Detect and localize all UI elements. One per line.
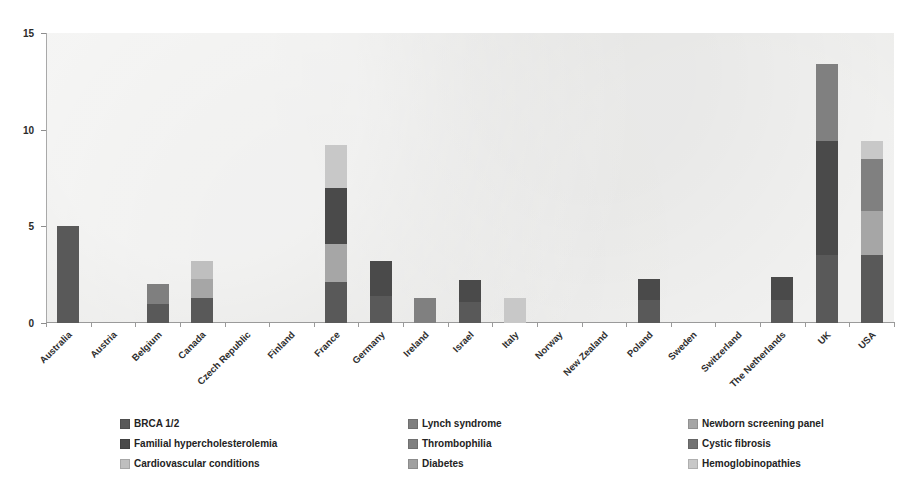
x-label-uk: UK bbox=[815, 329, 832, 346]
legend-item[interactable]: Cystic fibrosis bbox=[688, 438, 771, 449]
bar-segment[interactable] bbox=[771, 300, 793, 323]
legend-label: Familial hypercholesterolemia bbox=[134, 438, 277, 449]
x-label-ireland: Ireland bbox=[401, 329, 431, 359]
legend-swatch-icon bbox=[120, 439, 130, 449]
x-label-switzerland: Switzerland bbox=[698, 329, 743, 374]
bar-segment[interactable] bbox=[191, 261, 213, 278]
legend-item[interactable]: Diabetes bbox=[408, 458, 464, 469]
legend-label: Hemoglobinopathies bbox=[702, 458, 801, 469]
x-label-norway: Norway bbox=[533, 329, 565, 361]
x-label-israel: Israel bbox=[450, 329, 475, 354]
y-tick-label: 5 bbox=[0, 221, 34, 232]
bar-segment[interactable] bbox=[191, 279, 213, 298]
x-label-sweden: Sweden bbox=[666, 329, 699, 362]
y-tick-label: 10 bbox=[0, 124, 34, 135]
legend-item[interactable]: Thrombophilia bbox=[408, 438, 491, 449]
bar-segment[interactable] bbox=[638, 300, 660, 323]
bar-segment[interactable] bbox=[861, 159, 883, 211]
legend-label: BRCA 1/2 bbox=[134, 418, 179, 429]
x-label-canada: Canada bbox=[176, 329, 208, 361]
bar-segment[interactable] bbox=[816, 255, 838, 323]
bar-segment[interactable] bbox=[370, 261, 392, 296]
bar-france[interactable] bbox=[325, 145, 347, 323]
bar-segment[interactable] bbox=[861, 255, 883, 323]
bar-segment[interactable] bbox=[504, 298, 526, 323]
legend-label: Lynch syndrome bbox=[422, 418, 502, 429]
bar-segment[interactable] bbox=[191, 298, 213, 323]
bar-germany[interactable] bbox=[370, 261, 392, 323]
legend-label: Thrombophilia bbox=[422, 438, 491, 449]
x-label-new-zealand: New Zealand bbox=[561, 329, 610, 378]
bar-segment[interactable] bbox=[370, 296, 392, 323]
bar-segment[interactable] bbox=[816, 141, 838, 255]
legend-swatch-icon bbox=[408, 419, 418, 429]
bar-segment[interactable] bbox=[459, 280, 481, 301]
legend-swatch-icon bbox=[688, 459, 698, 469]
bar-poland[interactable] bbox=[638, 279, 660, 323]
bar-segment[interactable] bbox=[861, 211, 883, 255]
bar-usa[interactable] bbox=[861, 141, 883, 323]
legend-item[interactable]: Hemoglobinopathies bbox=[688, 458, 801, 469]
x-label-usa: USA bbox=[855, 329, 877, 351]
x-tick-mark bbox=[894, 322, 895, 327]
bar-segment[interactable] bbox=[459, 302, 481, 323]
legend-item[interactable]: Lynch syndrome bbox=[408, 418, 502, 429]
legend-label: Diabetes bbox=[422, 458, 464, 469]
chart-legend: BRCA 1/2Lynch syndromeNewborn screening … bbox=[120, 418, 840, 480]
legend-item[interactable]: BRCA 1/2 bbox=[120, 418, 179, 429]
bar-israel[interactable] bbox=[459, 280, 481, 323]
y-tick-label: 15 bbox=[0, 28, 34, 39]
x-label-france: France bbox=[312, 329, 342, 359]
bar-belgium[interactable] bbox=[147, 284, 169, 323]
x-label-poland: Poland bbox=[624, 329, 654, 359]
legend-swatch-icon bbox=[688, 439, 698, 449]
bars-layer bbox=[46, 33, 894, 323]
legend-swatch-icon bbox=[408, 439, 418, 449]
bar-segment[interactable] bbox=[771, 277, 793, 300]
x-label-australia: Australia bbox=[38, 329, 75, 366]
legend-item[interactable]: Newborn screening panel bbox=[688, 418, 824, 429]
bar-italy[interactable] bbox=[504, 298, 526, 323]
legend-swatch-icon bbox=[120, 459, 130, 469]
bar-australia[interactable] bbox=[57, 226, 79, 323]
legend-label: Cardiovascular conditions bbox=[134, 458, 260, 469]
x-label-germany: Germany bbox=[350, 329, 387, 366]
bar-segment[interactable] bbox=[325, 188, 347, 244]
legend-label: Newborn screening panel bbox=[702, 418, 824, 429]
bar-segment[interactable] bbox=[325, 145, 347, 188]
bar-segment[interactable] bbox=[638, 279, 660, 300]
legend-swatch-icon bbox=[408, 459, 418, 469]
bar-canada[interactable] bbox=[191, 261, 213, 323]
x-label-finland: Finland bbox=[266, 329, 298, 361]
x-label-italy: Italy bbox=[499, 329, 520, 350]
legend-swatch-icon bbox=[120, 419, 130, 429]
legend-label: Cystic fibrosis bbox=[702, 438, 771, 449]
bar-segment[interactable] bbox=[325, 244, 347, 283]
bar-ireland[interactable] bbox=[414, 298, 436, 323]
bar-uk[interactable] bbox=[816, 64, 838, 323]
x-label-belgium: Belgium bbox=[129, 329, 163, 363]
bar-segment[interactable] bbox=[325, 282, 347, 323]
y-tick-label: 0 bbox=[0, 318, 34, 329]
bar-the-netherlands[interactable] bbox=[771, 277, 793, 323]
bar-segment[interactable] bbox=[57, 226, 79, 323]
legend-item[interactable]: Cardiovascular conditions bbox=[120, 458, 260, 469]
bar-segment[interactable] bbox=[816, 64, 838, 141]
stacked-bar-chart: 051015 AustraliaAustriaBelgiumCanadaCzec… bbox=[0, 0, 902, 489]
legend-item[interactable]: Familial hypercholesterolemia bbox=[120, 438, 277, 449]
bar-segment[interactable] bbox=[147, 304, 169, 323]
bar-segment[interactable] bbox=[861, 141, 883, 158]
legend-swatch-icon bbox=[688, 419, 698, 429]
bar-segment[interactable] bbox=[414, 298, 436, 323]
bar-segment[interactable] bbox=[147, 284, 169, 303]
x-label-austria: Austria bbox=[88, 329, 119, 360]
